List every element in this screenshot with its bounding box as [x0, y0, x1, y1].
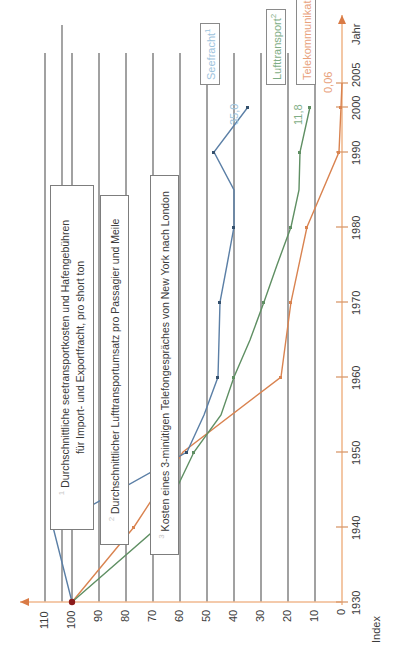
- year-tick-2005: 2005: [350, 63, 362, 87]
- footnote-box-3: 3 Kosten eines 3-minütigen Telefongesprä…: [150, 175, 179, 555]
- index-tick-50: 50: [200, 610, 212, 622]
- year-axis: [338, 15, 346, 605]
- legend-lufttransport-label: Lufttransport: [271, 18, 283, 80]
- legend-seefracht-sup: 1: [203, 28, 212, 32]
- index-tick-60: 60: [173, 610, 185, 622]
- index-tick-20: 20: [281, 610, 293, 622]
- footnote-box-1: 1 Durchschnittliche seetransportkosten u…: [50, 185, 94, 530]
- footnote-1-line1: Durchschnittliche seetransportkosten und…: [59, 220, 71, 488]
- chart-figure: 1930 1940 1950 1960 1970 1980 1990 2000 …: [0, 0, 407, 665]
- footnote-1-line2: für Import- und Exportfracht, pro short …: [74, 261, 86, 454]
- legend-lufttransport-sup: 2: [269, 14, 278, 18]
- year-tick-1960: 1960: [350, 366, 362, 390]
- legend-seefracht[interactable]: Seefracht1: [200, 23, 220, 85]
- legend-telekommunikation[interactable]: Telekommunikation3: [296, 0, 316, 85]
- footnote-3-line1: Kosten eines 3-minütigen Telefongespräch…: [159, 191, 171, 531]
- x-axis-title: Jahr: [350, 24, 362, 45]
- rotated-figure-wrapper: 1930 1940 1950 1960 1970 1980 1990 2000 …: [0, 0, 407, 665]
- index-tick-110: 110: [38, 611, 50, 629]
- legend-seefracht-label: Seefracht: [205, 33, 217, 80]
- index-tick-100: 100: [65, 611, 77, 629]
- footnote-box-2: 2 Durchschnittlicher Lufttransportumsatz…: [100, 195, 129, 545]
- y-axis-title: Index: [370, 616, 382, 643]
- index-tick-90: 90: [92, 610, 104, 622]
- index-tick-30: 30: [254, 610, 266, 622]
- endvalue-telekommunikation: 0,06: [322, 72, 334, 93]
- index-tick-10: 10: [308, 610, 320, 622]
- origin-marker: [69, 599, 75, 605]
- year-tick-1970: 1970: [350, 291, 362, 315]
- year-tick-1940: 1940: [350, 516, 362, 540]
- footnote-3-sup: 3: [157, 534, 166, 538]
- footnote-2-sup: 2: [107, 517, 116, 521]
- year-tick-2000: 2000: [350, 96, 362, 120]
- legend-lufttransport[interactable]: Lufttransport2: [266, 9, 286, 85]
- index-tick-40: 40: [227, 610, 239, 622]
- index-axis: [20, 598, 342, 606]
- legend-telekommunikation-label: Telekommunikation: [301, 0, 313, 80]
- year-tick-1950: 1950: [350, 441, 362, 465]
- index-tick-0: 0: [335, 609, 347, 615]
- footnote-1-sup: 1: [57, 491, 66, 495]
- index-tick-70: 70: [146, 610, 158, 622]
- endvalue-lufttransport: 11,8: [292, 104, 304, 125]
- endvalue-seefracht: 35,0: [228, 104, 240, 125]
- year-tick-1980: 1980: [350, 216, 362, 240]
- footnote-2-line1: Durchschnittlicher Lufttransportumsatz p…: [109, 219, 121, 514]
- index-tick-80: 80: [119, 610, 131, 622]
- year-tick-1990: 1990: [350, 141, 362, 165]
- year-tick-1930: 1930: [350, 591, 362, 615]
